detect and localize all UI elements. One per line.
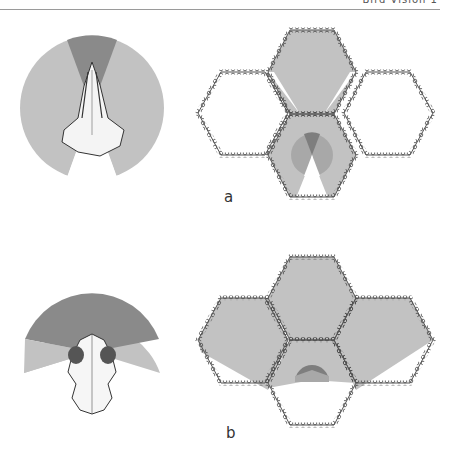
- panel-b-honeycomb: [198, 257, 433, 425]
- hex-right: [344, 72, 433, 155]
- figure-diagram: [0, 0, 458, 458]
- panel-label-b: b: [226, 424, 236, 442]
- panel-a-honeycomb: [198, 30, 433, 198]
- panel-label-a: a: [224, 188, 233, 206]
